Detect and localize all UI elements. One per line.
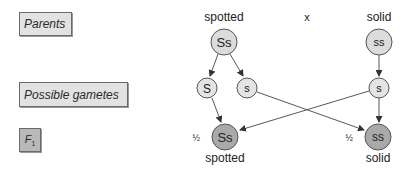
offspring-node-ss: ss: [365, 124, 391, 150]
arrow-s-right-to-Ss: [240, 91, 369, 130]
offspring-genotype: ss: [372, 130, 384, 144]
arrow-parent-to-gamete-S: [210, 54, 218, 76]
parent-left-phenotype: spotted: [204, 10, 243, 24]
arrow-parent-to-gamete-s-left: [230, 54, 243, 76]
parent-right-node: ss: [366, 29, 392, 55]
arrows: [210, 54, 379, 130]
offspring-fraction-left: ½: [192, 133, 200, 143]
offspring-fraction-right: ½: [345, 133, 353, 143]
arrow-S-to-Ss: [212, 98, 221, 122]
parent-left-node: Ss: [211, 29, 237, 55]
parent-right-genotype: ss: [374, 36, 386, 48]
gamete-node-s-right: s: [369, 78, 389, 98]
cross-symbol: x: [304, 11, 310, 23]
gamete-allele: s: [244, 82, 250, 94]
offspring-phenotype-right: solid: [366, 151, 391, 165]
gamete-allele: S: [203, 82, 211, 96]
gamete-node-s-left: s: [237, 78, 257, 98]
offspring-node-Ss: Ss: [212, 124, 238, 150]
offspring-genotype: Ss: [217, 130, 233, 145]
parent-left-genotype: Ss: [216, 35, 232, 50]
gamete-allele: s: [376, 82, 382, 94]
offspring-phenotype-left: spotted: [205, 151, 244, 165]
cross-diagram: spotted x solid Ss ss S s s ½ Ss spotted…: [0, 0, 415, 172]
parent-right-phenotype: solid: [367, 10, 392, 24]
gamete-node-S: S: [197, 78, 217, 98]
